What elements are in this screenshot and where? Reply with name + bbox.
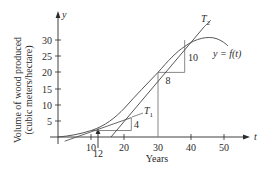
tangent-t1-label: T1 — [144, 105, 154, 119]
y-tick-label: 30 — [42, 35, 52, 46]
y-tick-labels: 5 10 15 20 25 30 — [42, 35, 52, 127]
arrow-label: 12 — [93, 148, 103, 159]
y-axis-title-line1: Volume of wood produced — [12, 37, 23, 143]
curve-f — [58, 37, 228, 137]
x-tick-label: 30 — [153, 142, 163, 153]
y-axis-variable: y — [61, 9, 67, 20]
y-tick-label: 15 — [42, 84, 52, 95]
tangent-t2-label: T2 — [201, 13, 211, 27]
run-label-t2: 8 — [166, 75, 171, 86]
x-axis-variable: t — [254, 131, 257, 142]
tangent-t1-leader — [132, 113, 143, 117]
y-tick-label: 10 — [42, 100, 52, 111]
x-tick-label: 20 — [119, 142, 129, 153]
y-tick-label: 5 — [47, 116, 52, 127]
y-axis-arrow-icon — [56, 11, 61, 18]
x-axis-title: Years — [146, 153, 168, 164]
y-axis-title: Volume of wood produced (cubic meters/he… — [12, 37, 35, 143]
rise-label-t1: 4 — [134, 119, 139, 130]
x-tick-label: 40 — [186, 142, 196, 153]
rise-label-t2: 10 — [188, 52, 198, 63]
x-tick-labels: 10 20 30 40 50 — [86, 142, 229, 153]
y-tick-label: 25 — [42, 51, 52, 62]
y-axis-title-line2: (cubic meters/hectare) — [23, 45, 35, 134]
curve-label: y = f(t) — [212, 48, 242, 60]
x-axis-arrow-icon — [243, 135, 250, 140]
x-tick-label: 50 — [219, 142, 229, 153]
y-tick-label: 20 — [42, 67, 52, 78]
chart: Volume of wood produced (cubic meters/he… — [0, 0, 265, 172]
axes — [50, 17, 243, 144]
